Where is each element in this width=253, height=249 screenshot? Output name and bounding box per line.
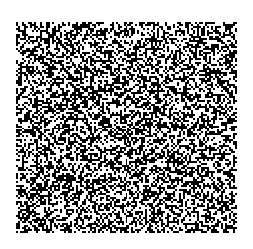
image-stage — [0, 0, 253, 249]
random-noise-pattern — [16, 22, 237, 233]
